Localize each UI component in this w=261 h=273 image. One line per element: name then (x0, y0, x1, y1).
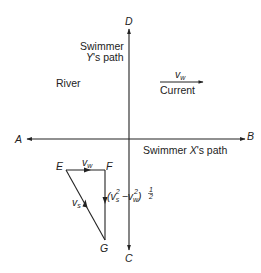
point-label-a: A (14, 133, 22, 145)
point-label-b: B (247, 130, 254, 142)
point-label-d: D (125, 15, 133, 27)
point-label-c: C (125, 252, 133, 264)
current-velocity-label: vw (175, 68, 186, 81)
point-label-f: F (106, 160, 113, 172)
swimmer-y-label-line2: Y's path (86, 51, 124, 63)
eg-velocity-label: vs (72, 196, 81, 209)
current-label: Current (160, 84, 195, 96)
fg-magnitude-expression: (vs2−vw2) 1 2 (107, 186, 153, 203)
river-crossing-diagram: D C A B Swimmer Y's path River vw Curren… (0, 0, 261, 273)
swimmer-x-label: Swimmer X's path (143, 144, 227, 156)
river-label: River (56, 77, 81, 89)
point-label-e: E (56, 160, 64, 172)
svg-text:1: 1 (149, 186, 153, 193)
svg-text:2: 2 (148, 193, 153, 200)
svg-text:(vs2−vw2): (vs2−vw2) (107, 188, 142, 203)
point-label-g: G (100, 242, 108, 254)
ef-velocity-label: vw (82, 156, 93, 169)
